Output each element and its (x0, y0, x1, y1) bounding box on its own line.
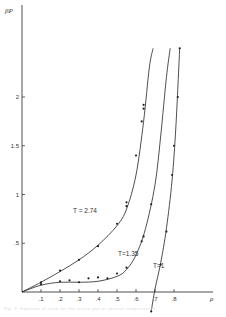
data-point (106, 277, 108, 279)
data-point (143, 104, 145, 106)
x-tick-label: .3 (76, 296, 82, 302)
x-tick-label: .1 (38, 296, 44, 302)
curve-label: T = 2.74 (73, 207, 97, 214)
data-point (116, 272, 118, 274)
data-point (78, 281, 80, 283)
data-point (125, 201, 127, 203)
y-ticks: .511.52 (11, 94, 25, 246)
data-point (141, 240, 143, 242)
data-point (177, 96, 179, 98)
data-point (59, 269, 61, 271)
y-axis-label: βP (4, 7, 13, 15)
curve-label: T=1.35 (118, 250, 139, 257)
data-point (141, 120, 143, 122)
data-point (97, 245, 99, 247)
data-point (173, 145, 175, 147)
data-point (150, 203, 152, 205)
data-point (78, 259, 80, 261)
x-tick-label: .2 (57, 296, 63, 302)
curve-label: T=1 (153, 262, 165, 269)
axes: βP ρ (4, 5, 214, 303)
data-point (116, 223, 118, 225)
data-point (87, 277, 89, 279)
curve-1 (22, 48, 170, 292)
chart: βP ρ .511.52 .1.2.3.4.5.6.7.8 T = 2.74T=… (0, 0, 226, 317)
x-tick-label: .5 (114, 296, 120, 302)
data-point (59, 280, 61, 282)
data-point (165, 230, 167, 232)
data-point (40, 283, 42, 285)
data-point (125, 267, 127, 269)
data-point (135, 154, 137, 156)
data-point (143, 235, 145, 237)
x-axis-label: ρ (209, 295, 214, 303)
x-tick-label: .8 (171, 296, 177, 302)
data-point (179, 47, 181, 49)
y-tick-label: .5 (14, 240, 20, 246)
data-points (40, 47, 181, 312)
y-tick-label: 2 (16, 94, 20, 100)
data-point (125, 205, 127, 207)
figure-caption: Fig. 3. Equation of state for the lattic… (4, 306, 222, 312)
data-point (143, 108, 145, 110)
x-tick-label: .6 (133, 296, 139, 302)
data-point (171, 174, 173, 176)
data-point (40, 281, 42, 283)
x-tick-label: .4 (95, 296, 101, 302)
y-tick-label: 1.5 (11, 143, 20, 149)
curve-labels: T = 2.74T=1.35T=1 (73, 207, 165, 269)
data-point (97, 276, 99, 278)
x-ticks: .1.2.3.4.5.6.7.8 (38, 289, 177, 302)
curves (22, 48, 180, 311)
data-point (68, 279, 70, 281)
y-tick-label: 1 (16, 192, 20, 198)
